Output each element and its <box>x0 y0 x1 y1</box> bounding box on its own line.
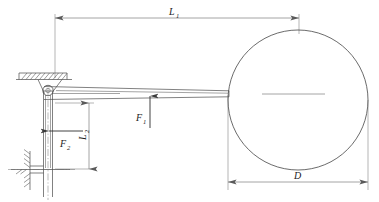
support-hatching <box>16 150 30 188</box>
drum <box>228 30 368 170</box>
force-F1: F 1 <box>135 96 150 128</box>
L2-label: L <box>77 134 88 141</box>
gusset-left-edge <box>38 80 45 94</box>
diagram-canvas: L 1 <box>0 0 379 202</box>
dimension-D: D <box>228 95 368 190</box>
F2-label: F <box>59 138 67 149</box>
L1-label: L <box>168 6 175 17</box>
drum-circle <box>228 30 368 170</box>
arm-top-edge <box>44 87 229 91</box>
dimension-L1: L 1 <box>55 6 299 78</box>
F1-label: F <box>135 112 143 123</box>
ceiling-bracket <box>16 73 72 80</box>
F2-subscript: 2 <box>67 144 71 151</box>
D-label: D <box>293 170 302 181</box>
arm-centerline <box>56 91 228 94</box>
gusset-right-edge <box>53 80 63 93</box>
arm-bottom-edge <box>44 97 229 100</box>
F1-subscript: 1 <box>143 118 146 125</box>
L2-subscript: 2 <box>83 129 90 133</box>
bracket-hatching <box>22 73 68 80</box>
L1-subscript: 1 <box>176 12 179 19</box>
vertical-rod <box>44 88 53 200</box>
dimension-L2: L 2 <box>55 103 94 169</box>
horizontal-arm <box>44 87 229 100</box>
ground-support <box>8 150 75 191</box>
mechanics-diagram: L 1 <box>0 0 379 202</box>
